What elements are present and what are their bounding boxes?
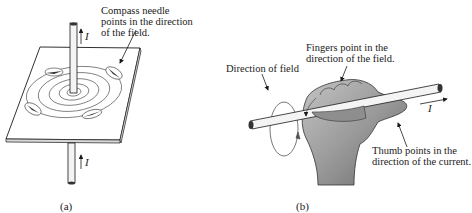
panel-a-figure	[6, 22, 141, 184]
current-label: I	[428, 102, 432, 114]
current-arrow	[420, 99, 447, 104]
fingers-annotation-line2: direction of the field.	[306, 53, 395, 64]
caption-b: (b)	[296, 200, 309, 212]
thumb-annotation-line2: direction of the current.	[372, 156, 471, 167]
pointer-thumb	[398, 123, 407, 147]
current-label-top: I	[85, 30, 89, 42]
panel-b-figure	[249, 66, 448, 185]
compass-annotation-line1: Compass needle	[101, 5, 170, 16]
diagram-canvas	[0, 0, 472, 213]
compass-needle	[45, 68, 63, 76]
current-label-bottom: I	[85, 156, 89, 168]
wire-bottom	[68, 143, 75, 185]
fingers-annotation-line1: Fingers point in the	[306, 42, 388, 53]
compass-annotation-line3: of the field.	[101, 27, 150, 38]
thumb-annotation-line1: Thumb points in the	[372, 145, 457, 156]
compass-annotation-line2: points in the direction	[101, 16, 193, 27]
wire-top	[70, 22, 77, 93]
caption-a: (a)	[60, 200, 72, 212]
pointer-fingers	[341, 66, 347, 81]
field-direction-label: Direction of field	[226, 63, 299, 74]
pointer-field	[262, 74, 268, 90]
field-loop	[270, 102, 300, 156]
